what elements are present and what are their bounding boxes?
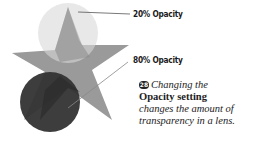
figure-number-badge: 28 [139, 81, 149, 89]
label-20-opacity: 20% Opacity [133, 8, 183, 19]
caption-bold-term: Opacity setting [139, 91, 207, 102]
caption-line-4: transparency in a lens. [139, 115, 235, 126]
label-80-opacity: 80% Opacity [133, 54, 183, 65]
caption-line-1: Changing the [151, 79, 208, 90]
caption-line-3: changes the amount of [139, 103, 234, 114]
figure-caption: 28Changing the Opacity setting changes t… [139, 79, 255, 127]
